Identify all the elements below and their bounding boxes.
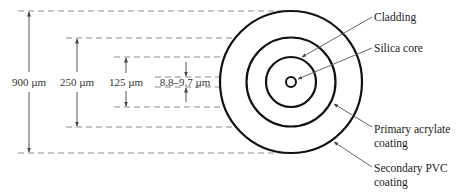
dimension-250: 250 µm — [60, 39, 95, 126]
label-cladding: Cladding — [374, 11, 416, 24]
dimension-900: 900 µm — [12, 12, 47, 152]
label-primary-acrylate-line2: coating — [374, 137, 408, 150]
dimension-label-core: 8.8–9.7 µm — [160, 76, 211, 88]
label-secondary-pvc-line2: coating — [374, 176, 408, 189]
label-silica-core: Silica core — [374, 42, 423, 54]
dimension-core: 8.8–9.7 µm — [160, 62, 211, 102]
dimension-label-900: 900 µm — [12, 76, 47, 88]
fiber-cross-section-diagram: 900 µm 250 µm 125 µm 8.8–9.7 µm Cladding… — [0, 0, 456, 195]
fiber-rings — [220, 11, 362, 153]
dimension-125: 125 µm — [109, 58, 144, 106]
dimension-label-250: 250 µm — [60, 76, 95, 88]
label-primary-acrylate-line1: Primary acrylate — [374, 123, 450, 136]
dimension-label-125: 125 µm — [109, 76, 144, 88]
secondary-pvc-ring — [220, 11, 362, 153]
label-secondary-pvc-line1: Secondary PVC — [374, 162, 448, 175]
